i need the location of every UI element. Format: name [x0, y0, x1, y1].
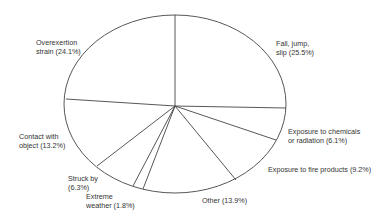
- label-line: (6.3%): [68, 184, 98, 193]
- label-chemicals-radiation: Exposure to chemicals or radiation (6.1%…: [288, 128, 360, 145]
- label-line: Exposure to fire products (9.2%): [268, 166, 371, 175]
- label-overexertion-strain: Overexertion strain (24.1%): [36, 39, 81, 56]
- label-other: Other (13.9%): [202, 197, 247, 206]
- label-line: strain (24.1%): [36, 48, 81, 57]
- label-line: or radiation (6.1%): [288, 137, 360, 146]
- label-line: object (13.2%): [19, 142, 65, 151]
- label-line: slip (25.5%): [276, 49, 314, 58]
- label-contact-with-object: Contact with object (13.2%): [19, 133, 65, 150]
- label-fall-jump-slip: Fall, jump, slip (25.5%): [276, 40, 314, 57]
- pie-chart: [0, 0, 387, 222]
- label-fire-products: Exposure to fire products (9.2%): [268, 166, 371, 175]
- label-line: weather (1.8%): [86, 202, 135, 211]
- label-extreme-weather: Extreme weather (1.8%): [86, 193, 135, 210]
- label-struck-by: Struck by (6.3%): [68, 175, 98, 192]
- label-line: Other (13.9%): [202, 197, 247, 206]
